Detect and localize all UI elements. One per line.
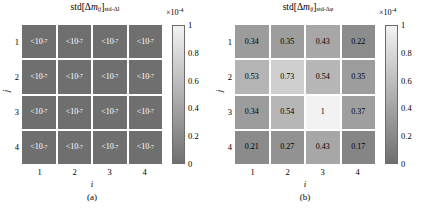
cell-value-exponent: -7 (78, 145, 83, 151)
heatmap-cell: <10-7 (22, 96, 56, 129)
heatmap-cell: 0.54 (271, 96, 305, 129)
heatmap-cell: 0.27 (271, 131, 305, 164)
cell-value-exponent: -7 (149, 39, 154, 45)
cell-value-base: <10 (101, 143, 114, 151)
cell-value-base: <10 (137, 38, 150, 46)
heatmap-cell: <10-7 (129, 25, 163, 58)
x-tick-label: 3 (100, 167, 120, 177)
panel-b-x-axis-label: i (235, 179, 375, 189)
heatmap-cell: <10-7 (22, 25, 56, 58)
heatmap-cell: <10-7 (93, 25, 127, 58)
colorbar-tick-label: 0.4 (401, 103, 425, 113)
colorbar-tick-label: 0.2 (188, 131, 212, 141)
cell-value: 1 (321, 108, 325, 116)
colorbar-tick-label: 0.4 (188, 103, 212, 113)
panel-a-colorbar (172, 25, 185, 164)
cell-value: 0.34 (245, 38, 259, 46)
x-tick-label: 4 (135, 167, 155, 177)
heatmap-cell: 0.43 (306, 131, 340, 164)
panel-b-colorbar-gradient (386, 26, 397, 163)
heatmap-cell: <10-7 (22, 131, 56, 164)
panel-b-title-subscript: std-Δφ (317, 5, 334, 12)
colorbar-tick-label: 0.8 (401, 48, 425, 58)
cell-value-exponent: -7 (43, 145, 48, 151)
panel-a-title-m: m (91, 2, 98, 12)
cell-value-base: <10 (30, 143, 43, 151)
y-tick-label: 4 (8, 142, 19, 152)
panel-b-heatmap-grid: 0.340.350.430.220.530.730.540.350.340.54… (235, 25, 375, 164)
heatmap-cell: <10-7 (93, 131, 127, 164)
heatmap-cell: 0.35 (271, 25, 305, 58)
heatmap-cell: <10-7 (129, 131, 163, 164)
panel-a-heatmap-grid: <10-7<10-7<10-7<10-7<10-7<10-7<10-7<10-7… (22, 25, 162, 164)
cell-value: 0.53 (245, 73, 259, 81)
cell-value: 0.54 (316, 73, 330, 81)
cell-value: 0.22 (351, 38, 365, 46)
cell-value: 0.73 (280, 73, 294, 81)
heatmap-cell: 0.17 (342, 131, 376, 164)
x-tick-label: 3 (313, 167, 333, 177)
colorbar-tick-label: 0.6 (188, 76, 212, 86)
cell-value-base: <10 (30, 38, 43, 46)
colorbar-tick-label: 1 (188, 20, 212, 30)
cell-value-base: <10 (101, 108, 114, 116)
heatmap-cell: <10-7 (22, 60, 56, 93)
cell-value-exponent: -7 (78, 109, 83, 115)
cell-value-base: <10 (101, 73, 114, 81)
colorbar-tick-label: 0.2 (401, 131, 425, 141)
cell-value-exponent: -7 (78, 39, 83, 45)
cell-value-base: <10 (66, 143, 79, 151)
figure-two-heatmap-panels: std[Δmij]std-Δl <10-7<10-7<10-7<10-7<10-… (0, 0, 425, 210)
y-tick-label: 1 (221, 37, 232, 47)
panel-b-title-m: m (303, 2, 310, 12)
colorbar-tick-label: 0 (188, 159, 212, 169)
cell-value: 0.35 (280, 38, 294, 46)
heatmap-cell: 0.73 (271, 60, 305, 93)
cell-value-exponent: -7 (78, 74, 83, 80)
cell-value-base: <10 (30, 73, 43, 81)
heatmap-cell: <10-7 (93, 96, 127, 129)
x-tick-label: 1 (243, 167, 263, 177)
cell-value-exponent: -7 (149, 109, 154, 115)
heatmap-cell: 0.34 (235, 25, 269, 58)
colorbar-tick-label: 0 (401, 159, 425, 169)
y-tick-label: 1 (8, 37, 19, 47)
panel-a-title-prefix: std[ (71, 2, 85, 12)
panel-a-title-subscript: std-Δl (104, 5, 119, 12)
cell-value-exponent: -7 (114, 109, 119, 115)
heatmap-cell: 0.54 (306, 60, 340, 93)
panel-a-x-axis-label: i (22, 179, 162, 189)
cell-value: 0.37 (351, 108, 365, 116)
heatmap-cell: <10-7 (58, 60, 92, 93)
heatmap-cell: 0.34 (235, 96, 269, 129)
panel-a-colorbar-multiplier-base: ×10 (166, 8, 179, 17)
cell-value-exponent: -7 (114, 145, 119, 151)
cell-value: 0.27 (280, 143, 294, 151)
colorbar-tick-label: 1 (401, 20, 425, 30)
colorbar-tick-label: 0.8 (188, 48, 212, 58)
y-tick-label: 2 (8, 72, 19, 82)
heatmap-cell: <10-7 (129, 60, 163, 93)
panel-b-colorbar-multiplier-base: ×10 (379, 8, 392, 17)
y-tick-label: 2 (221, 72, 232, 82)
cell-value-base: <10 (66, 38, 79, 46)
x-tick-label: 2 (65, 167, 85, 177)
heatmap-cell: <10-7 (93, 60, 127, 93)
panel-a-colorbar-multiplier-exponent: -4 (179, 7, 184, 13)
panel-b-colorbar-multiplier: ×10-4 (379, 7, 425, 17)
cell-value-exponent: -7 (43, 109, 48, 115)
heatmap-cell: 0.35 (342, 60, 376, 93)
cell-value: 0.43 (316, 143, 330, 151)
heatmap-cell: 0.37 (342, 96, 376, 129)
cell-value: 0.34 (245, 108, 259, 116)
panel-a-y-axis-label: j (1, 83, 11, 99)
panel-b-title: std[Δmij]std-Δφ (213, 2, 403, 14)
cell-value-exponent: -7 (43, 39, 48, 45)
panel-b-title-prefix: std[ (283, 2, 297, 12)
cell-value-exponent: -7 (114, 74, 119, 80)
cell-value-exponent: -7 (43, 74, 48, 80)
cell-value-base: <10 (66, 73, 79, 81)
heatmap-cell: 0.21 (235, 131, 269, 164)
panel-b: std[Δmij]std-Δφ 0.340.350.430.220.530.73… (213, 0, 425, 210)
cell-value-base: <10 (137, 143, 150, 151)
